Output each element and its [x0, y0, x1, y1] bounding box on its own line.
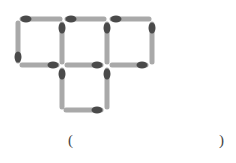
- match-head-icon: [149, 23, 156, 34]
- matchstick: [67, 62, 103, 69]
- match-head-icon: [66, 16, 77, 23]
- match-head-icon: [21, 16, 32, 23]
- matchstick: [15, 23, 22, 63]
- match-head-icon: [59, 69, 66, 80]
- matchstick: [111, 16, 150, 23]
- match-head-icon: [104, 23, 111, 34]
- matchstick-figure: [0, 0, 236, 125]
- matchstick: [66, 107, 103, 114]
- match-head-icon: [104, 69, 111, 80]
- matchstick: [22, 62, 59, 69]
- match-head-icon: [15, 52, 22, 63]
- matchstick: [104, 69, 111, 108]
- match-head-icon: [137, 62, 148, 69]
- match-head-icon: [59, 23, 66, 34]
- matchstick: [112, 62, 148, 69]
- matchstick: [59, 23, 66, 63]
- matchstick: [66, 16, 105, 23]
- matchstick: [104, 23, 111, 63]
- matchstick: [149, 23, 156, 63]
- answer-close-paren: ): [219, 133, 224, 148]
- match-head-icon: [48, 62, 59, 69]
- match-head-icon: [92, 62, 103, 69]
- matchstick: [21, 16, 61, 23]
- answer-open-paren: (: [68, 133, 73, 148]
- match-head-icon: [111, 16, 122, 23]
- match-head-icon: [92, 107, 103, 114]
- matchstick: [59, 69, 66, 108]
